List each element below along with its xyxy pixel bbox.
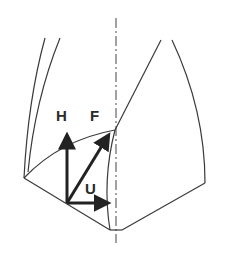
right-flank-edge [122,183,205,230]
right-lip-line [115,40,161,130]
label-f: F [90,108,99,123]
drill-diagram [0,0,230,259]
label-u: U [85,181,96,196]
cutting-lip-curve [24,130,115,178]
web-curve [107,130,115,230]
label-h: H [56,108,67,123]
right-margin-curve [172,40,205,183]
left-margin-outer [24,38,45,178]
